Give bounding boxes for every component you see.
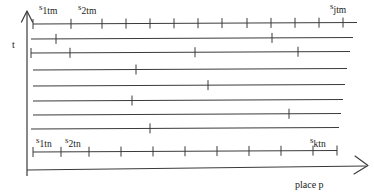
place-axis-arrowhead (354, 156, 368, 174)
timeline-line (31, 52, 350, 54)
timeline-line (33, 23, 357, 25)
timeline-row (31, 47, 350, 58)
timeline-row (31, 33, 353, 44)
label-s2tn: s2tn (65, 136, 81, 149)
timeline-row (31, 123, 339, 133)
label-subscript: 2tm (82, 6, 97, 16)
timeline-row (33, 18, 357, 29)
timeline-row (33, 65, 347, 75)
place-axis-label: place p (295, 180, 324, 190)
label-subscript: 1tn (40, 139, 52, 149)
place-axis-line (27, 166, 366, 170)
label-subscript: jtm (334, 5, 347, 15)
timeline-line (31, 128, 339, 130)
timeline-line (33, 85, 345, 87)
timeline-line (33, 114, 341, 116)
figure-root: s1tms2tmsjtms1tns2tnsktn t place p (0, 0, 374, 193)
label-subscript: 1tm (43, 6, 58, 16)
label-s2tm: s2tm (78, 3, 96, 16)
label-s1tm: s1tm (39, 3, 57, 16)
timeline-line (33, 69, 347, 71)
diagram-canvas (0, 0, 374, 193)
timeline-row (33, 109, 341, 119)
timeline-row (33, 96, 343, 106)
t-axis-label: t (12, 40, 15, 50)
timeline-line (31, 38, 353, 40)
label-subscript: 2tn (69, 139, 81, 149)
timeline-line (33, 100, 343, 102)
label-sjtm: sjtm (330, 2, 346, 15)
label-sktn: sktn (310, 136, 326, 149)
label-s1tn: s1tn (36, 136, 52, 149)
timeline-row (33, 80, 345, 90)
label-subscript: ktn (314, 139, 326, 149)
